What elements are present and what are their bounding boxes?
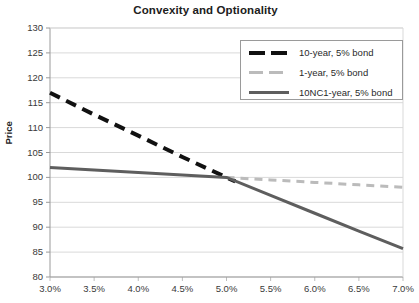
- legend-label: 10NC1-year, 5% bond: [299, 87, 392, 98]
- legend-label: 1-year, 5% bond: [299, 67, 368, 78]
- legend-line-swatch: [249, 47, 293, 57]
- series-line-1: [227, 177, 404, 187]
- legend-item-0[interactable]: 10-year, 5% bond: [241, 42, 404, 62]
- legend-item-1[interactable]: 1-year, 5% bond: [241, 62, 404, 82]
- legend-line-swatch: [249, 87, 293, 97]
- legend-item-2[interactable]: 10NC1-year, 5% bond: [241, 82, 404, 102]
- legend-label: 10-year, 5% bond: [299, 47, 373, 58]
- legend: 10-year, 5% bond1-year, 5% bond10NC1-yea…: [240, 40, 403, 100]
- data-series-layer: [50, 93, 403, 249]
- legend-line-swatch: [249, 67, 293, 77]
- series-line-2: [50, 167, 403, 248]
